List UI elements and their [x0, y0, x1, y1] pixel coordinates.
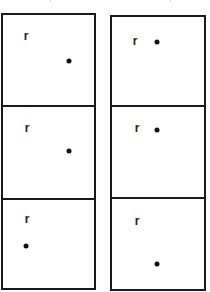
panel-left-3 — [3, 198, 94, 288]
panel-right-1 — [112, 17, 204, 105]
dot-left-2 — [67, 149, 72, 154]
panel-right-2 — [112, 105, 204, 197]
dot-right-1 — [155, 40, 160, 45]
dot-left-1 — [67, 59, 72, 64]
right-column — [110, 15, 206, 291]
cropped-fragment — [50, 0, 55, 1]
dot-right-3 — [155, 262, 160, 267]
panel-left-2 — [3, 105, 94, 198]
left-column — [1, 13, 96, 290]
r-label-left-1: r — [24, 30, 29, 42]
panel-right-3 — [112, 197, 204, 289]
cropped-fragment — [170, 0, 175, 1]
r-label-left-2: r — [25, 122, 30, 134]
dot-left-3 — [24, 244, 29, 249]
r-label-right-1: r — [133, 35, 138, 47]
r-label-right-2: r — [135, 122, 140, 134]
r-label-left-3: r — [25, 213, 30, 225]
dot-right-2 — [155, 128, 160, 133]
panel-left-1 — [3, 15, 94, 105]
r-label-right-3: r — [135, 215, 140, 227]
